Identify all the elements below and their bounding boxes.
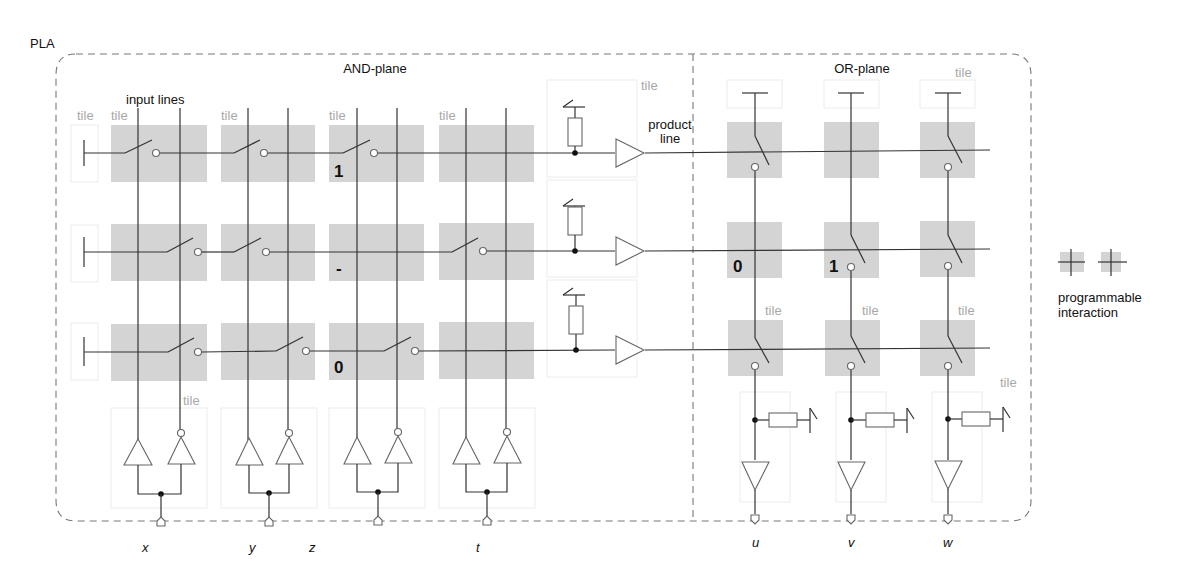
- or-value-v: 1: [829, 257, 838, 276]
- pullup-buffer-3: [563, 288, 644, 364]
- svg-text:tile: tile: [862, 303, 879, 318]
- input-label-x: x: [141, 540, 149, 555]
- and-plane-label: AND-plane: [343, 61, 407, 76]
- pla-boundary: [56, 54, 1031, 521]
- output-label-u: u: [752, 535, 759, 550]
- svg-text:tile: tile: [439, 108, 456, 123]
- input-label-z: z: [308, 540, 316, 555]
- svg-text:tile: tile: [765, 303, 782, 318]
- input-label-y: y: [248, 540, 257, 555]
- input-buffer-x: [124, 430, 195, 527]
- svg-text:tile: tile: [329, 108, 346, 123]
- input-buffer-z: [344, 429, 412, 526]
- output-pins: [751, 515, 952, 524]
- input-label-t: t: [476, 540, 481, 555]
- product-line-label-2: line: [660, 131, 680, 146]
- and-value-row2: -: [336, 259, 342, 278]
- legend-label-1: programmable: [1058, 290, 1142, 305]
- pla-diagram: PLA AND-plane OR-plane input lines produ…: [0, 0, 1202, 582]
- svg-text:tile: tile: [183, 393, 200, 408]
- and-value-row3: 0: [334, 358, 343, 377]
- and-plane-tiles: [111, 125, 534, 381]
- svg-text:tile: tile: [958, 303, 975, 318]
- input-buffer-y: [236, 430, 303, 527]
- svg-text:tile: tile: [1000, 375, 1017, 390]
- or-plane-label: OR-plane: [834, 61, 890, 76]
- output-label-w: w: [943, 535, 954, 550]
- svg-text:tile: tile: [111, 108, 128, 123]
- input-buffer-t: [453, 429, 521, 526]
- pullup-buffer-1: [563, 100, 644, 167]
- legend: programmable interaction: [1058, 249, 1142, 320]
- input-lines-label: input lines: [126, 92, 185, 107]
- pullup-buffer-2: [563, 199, 644, 265]
- svg-text:tile: tile: [641, 78, 658, 93]
- svg-text:tile: tile: [77, 108, 94, 123]
- svg-text:tile: tile: [221, 108, 238, 123]
- svg-text:tile: tile: [955, 65, 972, 80]
- and-value-row1: 1: [334, 162, 343, 181]
- or-value-u: 0: [733, 257, 742, 276]
- pla-title: PLA: [30, 36, 55, 51]
- product-line-label-1: product: [648, 117, 692, 132]
- legend-label-2: interaction: [1058, 305, 1118, 320]
- output-label-v: v: [848, 535, 856, 550]
